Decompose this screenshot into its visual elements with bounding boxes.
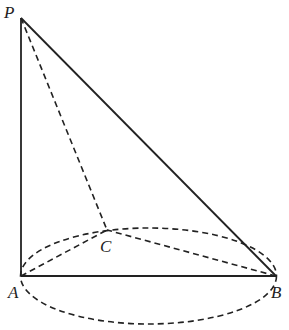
segment-BC [107,230,276,276]
segment-AC [21,230,107,276]
diagram-canvas: P A B C [0,0,289,330]
label-P: P [3,3,14,22]
label-A: A [7,283,19,302]
segment-PB [21,18,276,276]
segment-PC [21,18,107,230]
label-C: C [100,237,112,256]
geometry-diagram: P A B C [0,0,289,330]
label-B: B [271,283,282,302]
